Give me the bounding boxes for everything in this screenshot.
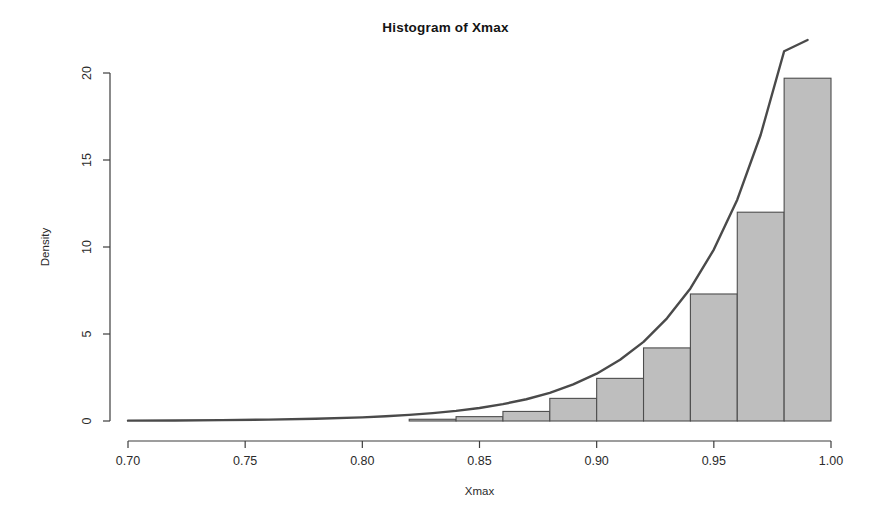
histogram-bar	[503, 411, 550, 421]
histogram-bar	[690, 294, 737, 421]
histogram-bar	[456, 417, 503, 421]
x-axis-title: Xmax	[465, 485, 495, 497]
x-axis-tick-label: 0.80	[350, 454, 374, 468]
histogram-bars-group	[409, 78, 831, 421]
y-axis-tick-label: 0	[80, 417, 94, 424]
histogram-bar	[409, 419, 456, 421]
axis-labels-group: 0.700.750.800.850.900.951.0005101520Xmax…	[39, 66, 843, 497]
x-axis-tick-label: 1.00	[819, 454, 843, 468]
y-axis-tick-label: 15	[80, 153, 94, 167]
histogram-bar	[550, 398, 597, 421]
histogram-bar	[737, 212, 784, 421]
histogram-plot-panel: Histogram of Xmax 0.700.750.800.850.900.…	[0, 0, 891, 528]
histogram-chart-svg: 0.700.750.800.850.900.951.0005101520Xmax…	[0, 0, 891, 528]
y-axis-tick-label: 5	[80, 330, 94, 337]
y-axis-title: Density	[39, 228, 51, 267]
x-axis-tick-label: 0.70	[116, 454, 140, 468]
x-axis-tick-label: 0.75	[233, 454, 257, 468]
y-axis-tick-label: 10	[80, 240, 94, 254]
y-axis-tick-label: 20	[80, 66, 94, 80]
x-axis-tick-label: 0.85	[467, 454, 491, 468]
histogram-bar	[597, 378, 644, 421]
histogram-bar	[644, 348, 691, 421]
x-axis-tick-label: 0.95	[702, 454, 726, 468]
histogram-bar	[784, 78, 831, 421]
x-axis-tick-label: 0.90	[584, 454, 608, 468]
